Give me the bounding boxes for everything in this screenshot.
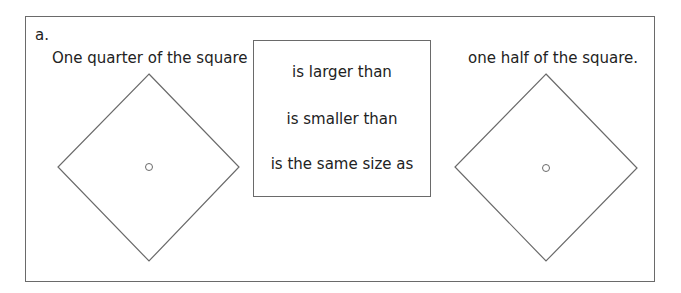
right-diamond-square [0, 0, 681, 293]
right-center-circle-icon [543, 165, 550, 172]
